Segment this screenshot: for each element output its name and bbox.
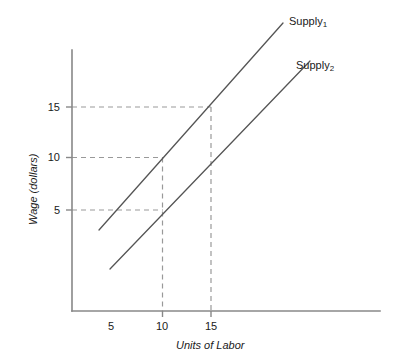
supply-1-line <box>99 23 283 230</box>
guide-lines <box>72 107 211 311</box>
y-axis-title: Wage (dollars) <box>28 154 39 225</box>
x-tick-label-10: 10 <box>149 321 175 332</box>
supply-1-label: Supply1 <box>289 16 327 27</box>
x-axis-title: Units of Labor <box>176 340 244 351</box>
axis-lines <box>72 50 380 311</box>
x-tick-label-5: 5 <box>98 321 124 332</box>
supply-2-label-text: Supply <box>296 59 330 71</box>
supply-curve-chart: 15 10 5 5 10 15 Wage (dollars) Units of … <box>0 0 396 363</box>
x-tick-label-15: 15 <box>198 321 224 332</box>
tick-marks <box>66 107 211 317</box>
y-tick-label-15: 15 <box>34 102 60 113</box>
supply-1-label-text: Supply <box>289 15 323 27</box>
supply-2-label: Supply2 <box>296 60 334 71</box>
supply-1-label-subscript: 1 <box>323 20 327 29</box>
supply-curves <box>99 23 310 269</box>
supply-2-line <box>110 61 310 269</box>
supply-2-label-subscript: 2 <box>330 64 334 73</box>
chart-plot-area <box>0 0 396 363</box>
